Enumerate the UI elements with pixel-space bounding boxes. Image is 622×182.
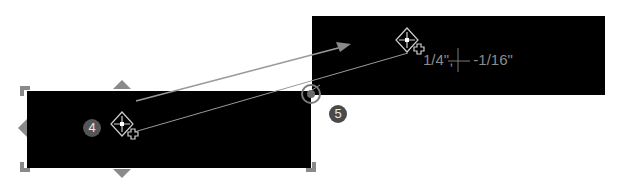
transform-overlay <box>0 0 622 182</box>
separator: , <box>449 51 453 68</box>
snap-point-icon <box>302 85 320 103</box>
offset-readout: 1/4",-1/16" <box>423 51 513 68</box>
edge-handle-left[interactable] <box>18 119 27 137</box>
corner-handle-bottom-left[interactable] <box>20 162 30 172</box>
move-guides <box>134 47 408 132</box>
copy-plus-icon <box>128 129 138 139</box>
step-badge-5: 5 <box>329 105 347 123</box>
y-offset-value: -1/16" <box>473 51 513 68</box>
corner-handle-bottom-right[interactable] <box>306 162 316 172</box>
arrow-head-icon <box>336 42 351 52</box>
x-offset-value: 1/4" <box>423 51 449 68</box>
corner-handle-top-left[interactable] <box>20 86 30 96</box>
edge-handle-top[interactable] <box>113 80 131 89</box>
selection-handles[interactable] <box>18 80 316 178</box>
step-badge-4: 4 <box>83 119 101 137</box>
edge-handle-bottom[interactable] <box>113 169 131 178</box>
